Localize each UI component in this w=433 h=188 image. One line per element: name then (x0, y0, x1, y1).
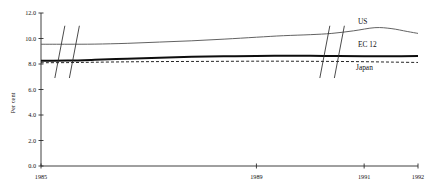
y-tick-label: 4.0 (28, 111, 36, 118)
break-slash-2-2 (334, 26, 344, 78)
break-slash-1-2 (69, 26, 79, 78)
series-line-ec12 (41, 56, 418, 61)
series-label-us: US (358, 17, 367, 26)
y-tick-label: 12.0 (25, 9, 36, 16)
y-axis-title: Per cent (9, 92, 16, 113)
break-slash-1-1 (55, 26, 65, 78)
x-tick-label: 1991 (358, 173, 370, 180)
y-tick-label: 6.0 (28, 86, 36, 93)
y-axis-group: 0.02.04.06.08.010.012.0 Per cent (9, 9, 44, 169)
y-tick-label: 10.0 (25, 35, 36, 42)
x-tick-label: 1992 (412, 173, 424, 180)
x-tick-labels: 1985198919911992 (35, 173, 424, 180)
y-tick-label: 8.0 (28, 60, 36, 67)
x-axis-group: 1985198919911992 (35, 164, 424, 181)
line-chart: 0.02.04.06.08.010.012.0 Per cent 1985198… (0, 0, 433, 188)
series-label-japan: Japan (356, 63, 373, 72)
series-label-ec12: EC 12 (358, 40, 377, 49)
y-tick-label: 2.0 (28, 137, 36, 144)
x-tick-label: 1989 (250, 173, 262, 180)
chart-container: 0.02.04.06.08.010.012.0 Per cent 1985198… (0, 0, 433, 188)
y-tick-label: 0.0 (28, 162, 36, 169)
y-tick-labels: 0.02.04.06.08.010.012.0 (25, 9, 36, 169)
x-tick-label: 1985 (35, 173, 47, 180)
axis-break-marks (55, 26, 345, 78)
